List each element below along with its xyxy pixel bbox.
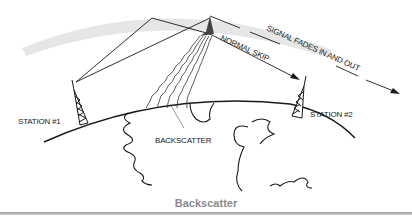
station-1-tower (72, 80, 88, 125)
coastline-mid (190, 103, 214, 122)
station-2-label: STATION #2 (310, 110, 353, 119)
coastline-continent (234, 119, 274, 191)
coastline-island (270, 178, 312, 188)
caption-rule (0, 212, 412, 215)
coastline-west (123, 113, 152, 185)
backscatter-rays (146, 36, 212, 108)
signal-fades-label: SIGNAL FADES IN AND OUT (265, 24, 361, 73)
station-1-label: STATION #1 (18, 117, 61, 126)
station-2-tower (292, 76, 306, 118)
backscatter-diagram: STATION #1 STATION #2 BACKSCATTER NORMAL… (0, 0, 412, 216)
backscatter-label: BACKSCATTER (155, 136, 212, 145)
figure-caption: Backscatter (0, 197, 412, 209)
